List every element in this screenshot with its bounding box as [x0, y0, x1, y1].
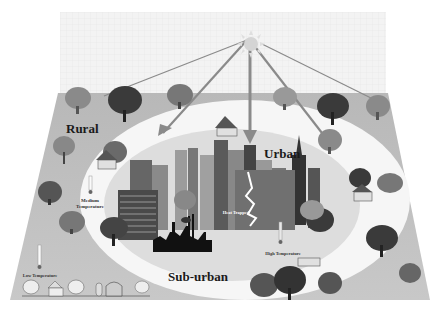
- thermometer-icon: [89, 176, 93, 194]
- thermometer-icon: [279, 222, 283, 244]
- tree-icon: [174, 190, 196, 210]
- tree-icon: [23, 280, 39, 294]
- tree-icon: [135, 281, 149, 293]
- tree-icon: [250, 273, 278, 297]
- zone-label-suburban: Sub-urban: [168, 269, 229, 284]
- zone-label-rural: Rural: [66, 121, 99, 136]
- sun-icon: [237, 30, 265, 58]
- skyscraper-icon: [214, 140, 228, 230]
- barn-icon: [96, 282, 122, 296]
- tree-icon: [318, 272, 342, 294]
- high-temperature-label: High Temperature: [265, 251, 301, 256]
- tree-icon: [377, 173, 403, 193]
- house-icon: [298, 258, 320, 266]
- medium-temperature-label: Medium: [81, 198, 100, 203]
- tree-icon: [68, 280, 84, 294]
- tree-icon: [399, 263, 421, 283]
- medium-temperature-label: Temperature: [76, 204, 105, 209]
- zone-label-urban: Urban: [264, 146, 301, 161]
- skyscraper-icon: [235, 170, 295, 230]
- tree-icon: [349, 168, 371, 188]
- low-temperature-label: Low Temperature: [23, 273, 58, 278]
- heat-trapped-label: Heat Trapped: [223, 210, 250, 215]
- skyscraper-icon: [200, 155, 214, 230]
- urban-heat-island-diagram: Rural Urban Sub-urban Medium Temperature…: [0, 0, 448, 320]
- tree-icon: [300, 200, 324, 220]
